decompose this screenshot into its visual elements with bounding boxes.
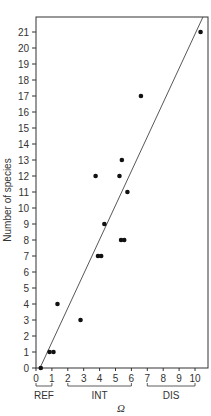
y-tick-label: 15 xyxy=(18,123,30,134)
data-point xyxy=(78,318,83,323)
x-tick-label: 9 xyxy=(176,373,182,384)
y-tick-label: 0 xyxy=(23,363,29,374)
y-tick-label: 12 xyxy=(18,171,30,182)
regression-line xyxy=(40,17,203,368)
group-label-dis: DIS xyxy=(163,390,180,401)
y-tick-label: 3 xyxy=(23,315,29,326)
y-axis: 0123456789101112131415161718192021 xyxy=(18,27,36,374)
group-label-int: INT xyxy=(92,390,108,401)
x-tick-label: 6 xyxy=(129,373,135,384)
y-tick-label: 20 xyxy=(18,43,30,54)
group-bracket xyxy=(147,383,195,386)
data-point xyxy=(102,222,107,227)
x-tick-label: 8 xyxy=(160,373,166,384)
fit-line xyxy=(40,17,203,368)
x-tick-label: 5 xyxy=(113,373,119,384)
plot-border xyxy=(36,17,208,368)
data-point xyxy=(139,94,144,99)
y-tick-label: 9 xyxy=(23,219,29,230)
x-tick-label: 4 xyxy=(97,373,103,384)
y-tick-label: 5 xyxy=(23,283,29,294)
data-point xyxy=(117,174,122,179)
y-tick-label: 8 xyxy=(23,235,29,246)
y-tick-label: 18 xyxy=(18,75,30,86)
data-points xyxy=(38,30,202,371)
data-point xyxy=(93,174,98,179)
data-point xyxy=(122,238,127,243)
x-tick-label: 7 xyxy=(145,373,151,384)
y-axis-title: Number of species xyxy=(2,158,13,241)
y-tick-label: 10 xyxy=(18,203,30,214)
y-tick-label: 6 xyxy=(23,267,29,278)
data-point xyxy=(99,254,104,259)
y-tick-label: 2 xyxy=(23,331,29,342)
x-tick-label: 3 xyxy=(81,373,87,384)
data-point xyxy=(51,350,56,355)
y-tick-label: 17 xyxy=(18,91,30,102)
y-tick-label: 7 xyxy=(23,251,29,262)
data-point xyxy=(47,350,52,355)
x-tick-label: 2 xyxy=(65,373,71,384)
data-point xyxy=(55,302,60,307)
y-tick-label: 4 xyxy=(23,299,29,310)
y-tick-label: 14 xyxy=(18,139,30,150)
x-groups: REFINTDIS xyxy=(34,383,195,401)
x-tick-label: 1 xyxy=(49,373,55,384)
y-tick-label: 16 xyxy=(18,107,30,118)
x-axis: 012345678910 xyxy=(33,368,201,384)
y-tick-label: 1 xyxy=(23,347,29,358)
scatter-chart: 0123456789101112131415161718192021 01234… xyxy=(0,0,211,416)
y-tick-label: 13 xyxy=(18,155,30,166)
x-tick-label: 10 xyxy=(189,373,201,384)
x-axis-title: Ω xyxy=(117,402,125,414)
y-tick-label: 19 xyxy=(18,59,30,70)
data-point xyxy=(120,158,125,163)
x-tick-label: 0 xyxy=(33,373,39,384)
data-point xyxy=(38,366,43,371)
data-point xyxy=(125,190,130,195)
y-tick-label: 11 xyxy=(19,187,30,198)
group-label-ref: REF xyxy=(34,390,54,401)
plot-frame xyxy=(36,17,208,368)
y-tick-label: 21 xyxy=(18,27,30,38)
data-point xyxy=(198,30,203,35)
